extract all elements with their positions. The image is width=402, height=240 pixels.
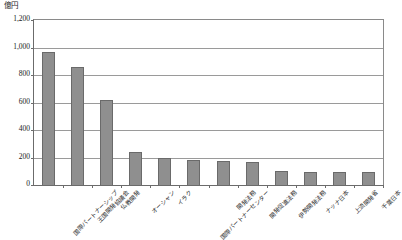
y-axis-tick-mark [31,48,34,49]
x-axis-category-label: 開発促進法務 [268,189,298,219]
x-axis-category-label: 千葉日本 [380,189,402,211]
y-axis-tick-labels: 02004006008001,0001,200 [0,0,30,231]
y-axis-tick-label: 0 [0,180,30,188]
bar [362,172,375,185]
x-axis-category-label: オーシャン [150,189,176,215]
bar [158,158,171,186]
bar [275,171,288,185]
x-axis-category-label: ナッナ日本 [324,189,350,215]
y-axis-tick-mark [31,103,34,104]
x-axis-category-label: イラク [175,189,193,207]
gridline [34,48,383,49]
y-axis-tick-label: 600 [0,98,30,106]
y-axis-tick-mark [31,158,34,159]
gridline [34,103,383,104]
gridline [34,75,383,76]
y-axis-tick-mark [31,20,34,21]
y-axis-tick-mark [31,130,34,131]
bar [304,172,317,185]
bar [129,152,142,185]
bar [333,172,346,185]
bar [187,160,200,185]
bar [42,52,55,185]
y-axis-tick-label: 400 [0,125,30,133]
gridline [34,130,383,131]
plot-area [33,19,384,186]
bar [71,67,84,185]
y-axis-tick-label: 1,000 [0,43,30,51]
bar [246,162,259,185]
gridline [34,158,383,159]
y-axis-tick-label: 800 [0,70,30,78]
bar [217,161,230,185]
y-axis-tick-label: 1,200 [0,15,30,23]
y-axis-tick-mark [31,75,34,76]
x-axis-category-labels: 国際パートナーシップ王国開発協議会仏教開発オーシャンイラク国際パートナーセンター… [33,186,384,231]
x-axis-category-label: 上流開発省 [353,189,379,215]
y-axis-tick-label: 200 [0,153,30,161]
x-axis-category-label: 国際パートナーシップ [71,189,118,236]
x-axis-category-label: 伊勢開発法務 [297,189,327,219]
bar [100,100,113,185]
